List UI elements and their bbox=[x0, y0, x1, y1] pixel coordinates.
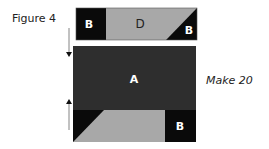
quilt-block-diagram: B D B A B bbox=[0, 0, 269, 149]
label-d: D bbox=[135, 17, 144, 31]
bottom-strip: B bbox=[73, 110, 196, 142]
label-b-bottom-right: B bbox=[176, 120, 184, 133]
label-b-top-right: B bbox=[185, 24, 193, 37]
up-arrow-icon bbox=[66, 99, 72, 130]
down-arrow-icon bbox=[66, 28, 72, 57]
label-a: A bbox=[130, 73, 139, 86]
top-strip: B D B bbox=[76, 8, 197, 40]
label-b-top-left: B bbox=[85, 18, 93, 31]
center-piece: A bbox=[73, 46, 196, 110]
